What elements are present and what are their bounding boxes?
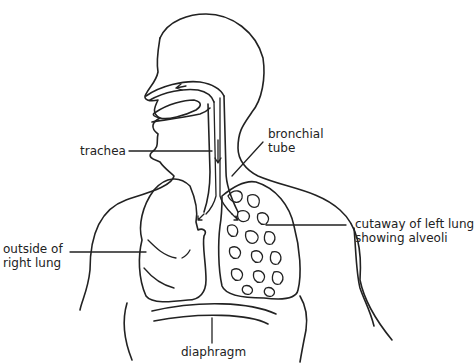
airflow-arrow-left-bronchus [198, 214, 204, 220]
face-profile [80, 38, 174, 310]
left-arm-inner [300, 296, 307, 362]
oral-cavity [152, 108, 210, 122]
respiratory-diagram: trachea bronchial tube cutaway of left l… [0, 0, 476, 363]
right-lung-label-line1: outside of [3, 243, 63, 256]
right-arm-inner [124, 303, 132, 360]
bronchial-tube-leader [232, 142, 263, 176]
right-lung-fissure [148, 240, 190, 258]
left-lung-label-line2: showing alveoli [355, 232, 448, 245]
right-lung [139, 179, 206, 302]
nasal-passage-inner [150, 89, 214, 102]
trachea-label: trachea [80, 145, 126, 158]
bronchial-tube-label-line2: tube [268, 142, 295, 155]
trachea-outer-left [204, 104, 210, 212]
diaphragm-lower [154, 315, 268, 324]
nasal-cavity [146, 82, 224, 96]
head-outline [160, 14, 392, 340]
trachea-outer-right [224, 96, 238, 212]
right-lung-label-line2: right lung [3, 257, 61, 270]
left-lung-label-line1: cutaway of left lung [355, 218, 474, 231]
diaphragm-upper [152, 304, 276, 314]
diagram-drawing [0, 0, 476, 363]
bronchial-tube-label-line1: bronchial [268, 128, 323, 141]
right-lung-fissure-lower [144, 268, 174, 288]
diaphragm-label: diaphragm [181, 346, 246, 359]
